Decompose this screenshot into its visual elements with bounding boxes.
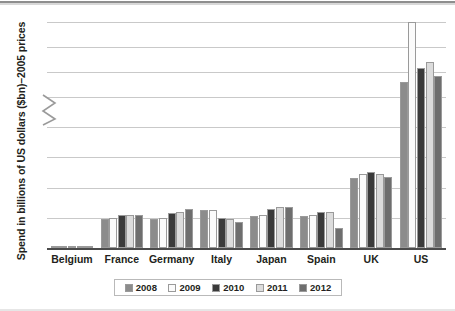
bar-group bbox=[150, 20, 192, 250]
legend-item-2011[interactable]: 2011 bbox=[256, 283, 288, 293]
bar-italy-2008 bbox=[200, 210, 208, 248]
x-axis-label-germany: Germany bbox=[147, 253, 197, 265]
bar-chart-figure: Spend in billions of US dollars ($bn)–20… bbox=[0, 0, 455, 311]
legend-item-2012[interactable]: 2012 bbox=[299, 283, 331, 293]
x-axis-label-uk: UK bbox=[346, 253, 396, 265]
bar-italy-2011 bbox=[226, 219, 234, 248]
legend-item-2010[interactable]: 2010 bbox=[212, 283, 244, 293]
legend-swatch-2012 bbox=[299, 284, 307, 292]
bar-germany-2011 bbox=[176, 212, 184, 248]
bar-spain-2012 bbox=[335, 228, 343, 248]
bar-france-2008 bbox=[101, 219, 109, 248]
x-axis-label-spain: Spain bbox=[296, 253, 346, 265]
x-axis-tick-labels: BelgiumFranceGermanyItalyJapanSpainUKUS bbox=[47, 253, 446, 269]
x-axis-label-belgium: Belgium bbox=[47, 253, 97, 265]
bar-group bbox=[51, 20, 93, 250]
bar-uk-2010 bbox=[367, 172, 375, 248]
legend-label-2008: 2008 bbox=[136, 283, 157, 293]
bar-italy-2009 bbox=[209, 210, 217, 248]
bar-belgium-2012 bbox=[85, 246, 93, 248]
legend-label-2009: 2009 bbox=[179, 283, 200, 293]
bar-japan-2008 bbox=[250, 216, 258, 248]
bar-us-2010 bbox=[417, 68, 425, 248]
plot-area: 0123425303540 bbox=[47, 20, 446, 250]
bar-uk-2012 bbox=[384, 177, 392, 248]
bar-us-2008 bbox=[400, 82, 408, 248]
bar-germany-2010 bbox=[168, 213, 176, 248]
legend-item-2008[interactable]: 2008 bbox=[125, 283, 157, 293]
bar-us-2011 bbox=[426, 62, 434, 248]
bar-japan-2011 bbox=[276, 207, 284, 248]
bar-group bbox=[350, 20, 392, 250]
bar-italy-2010 bbox=[218, 218, 226, 248]
bar-uk-2009 bbox=[359, 174, 367, 248]
bar-france-2011 bbox=[126, 215, 134, 248]
bar-france-2010 bbox=[118, 215, 126, 248]
bar-belgium-2009 bbox=[59, 246, 67, 248]
bar-germany-2012 bbox=[185, 209, 193, 248]
bar-belgium-2011 bbox=[77, 246, 85, 248]
bar-us-2012 bbox=[434, 76, 442, 249]
x-axis-label-italy: Italy bbox=[197, 253, 247, 265]
bar-belgium-2010 bbox=[68, 246, 76, 248]
bar-germany-2009 bbox=[159, 218, 167, 248]
legend-label-2011: 2011 bbox=[267, 283, 288, 293]
legend-swatch-2011 bbox=[256, 284, 264, 292]
bar-spain-2011 bbox=[326, 212, 334, 248]
bar-group bbox=[400, 20, 442, 250]
bar-france-2012 bbox=[135, 215, 143, 248]
legend-swatch-2010 bbox=[212, 284, 220, 292]
x-axis-label-japan: Japan bbox=[247, 253, 297, 265]
bar-groups bbox=[47, 20, 446, 250]
chart-legend: 20082009201020112012 bbox=[114, 279, 342, 296]
bar-japan-2009 bbox=[259, 215, 267, 248]
legend-label-2012: 2012 bbox=[310, 283, 331, 293]
bar-italy-2012 bbox=[235, 222, 243, 248]
bar-us-2009 bbox=[408, 22, 416, 248]
bar-group bbox=[101, 20, 143, 250]
bar-belgium-2008 bbox=[51, 246, 59, 248]
y-axis-title: Spend in billions of US dollars ($bn)–20… bbox=[15, 16, 27, 266]
bar-spain-2009 bbox=[309, 215, 317, 248]
bar-uk-2008 bbox=[350, 178, 358, 248]
x-axis-label-us: US bbox=[396, 253, 446, 265]
bar-group bbox=[300, 20, 342, 250]
legend-label-2010: 2010 bbox=[223, 283, 244, 293]
bar-uk-2011 bbox=[376, 174, 384, 248]
bar-france-2009 bbox=[109, 218, 117, 248]
bar-japan-2010 bbox=[267, 209, 275, 248]
legend-swatch-2008 bbox=[125, 284, 133, 292]
legend-item-2009[interactable]: 2009 bbox=[168, 283, 200, 293]
bar-spain-2008 bbox=[300, 216, 308, 248]
bar-germany-2008 bbox=[150, 219, 158, 248]
bar-group bbox=[200, 20, 242, 250]
bar-japan-2012 bbox=[285, 207, 293, 248]
bar-group bbox=[250, 20, 292, 250]
x-axis-label-france: France bbox=[97, 253, 147, 265]
legend-swatch-2009 bbox=[168, 284, 176, 292]
bar-spain-2010 bbox=[317, 212, 325, 248]
